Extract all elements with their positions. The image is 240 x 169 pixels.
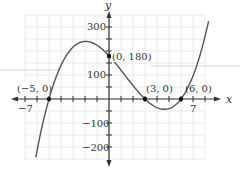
x-axis-label: x xyxy=(226,93,233,106)
y-axis-label: y xyxy=(104,0,112,12)
polynomial-graph: x y −7 7 300 100 −100 −200 (−5, 0) (0, 1… xyxy=(0,0,240,169)
function-curve xyxy=(36,21,209,157)
point-label-neg5-0: (−5, 0) xyxy=(17,83,52,94)
x-axis-arrow-right xyxy=(214,97,221,102)
y-axis-arrow-up xyxy=(107,11,112,18)
point-3-0 xyxy=(143,97,147,101)
y-tick-label-neg100: −100 xyxy=(82,118,109,129)
y-tick-label-neg200: −200 xyxy=(82,142,109,153)
x-tick-label-7: 7 xyxy=(190,103,196,114)
x-tick-label-neg7: −7 xyxy=(18,103,33,114)
point-0-180 xyxy=(107,54,111,58)
point-label-3-0: (3, 0) xyxy=(146,83,173,94)
point-label-0-180: (0, 180) xyxy=(112,51,152,62)
x-axis-arrow-left xyxy=(11,97,18,102)
y-tick-label-100: 100 xyxy=(87,69,106,80)
point-6-0 xyxy=(179,97,183,101)
point-label-6-0: (6, 0) xyxy=(185,83,212,94)
y-tick-label-300: 300 xyxy=(87,21,106,32)
point-neg5-0 xyxy=(47,97,51,101)
y-axis-arrow-down xyxy=(107,160,112,167)
